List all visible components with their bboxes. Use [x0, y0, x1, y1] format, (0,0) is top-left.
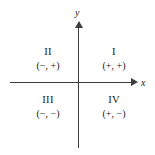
quadrant-label-1: I (+, +)	[88, 45, 140, 73]
quadrant-label-3: III (−, −)	[22, 93, 74, 121]
y-axis-arrowhead-icon	[75, 21, 83, 28]
y-axis-line	[78, 27, 79, 148]
quadrant-numeral: III	[22, 93, 74, 106]
x-axis-arrowhead-icon	[131, 78, 138, 86]
quadrant-numeral: IV	[88, 93, 140, 106]
quadrant-signs: (−, −)	[22, 107, 74, 121]
y-axis-label: y	[75, 8, 79, 18]
x-axis-line	[10, 82, 134, 83]
quadrant-label-2: II (−, +)	[22, 45, 74, 73]
x-axis-label: x	[141, 78, 145, 88]
quadrant-signs: (−, +)	[22, 59, 74, 73]
quadrant-signs: (+, −)	[88, 107, 140, 121]
quadrant-signs: (+, +)	[88, 59, 140, 73]
quadrant-numeral: I	[88, 45, 140, 58]
quadrant-label-4: IV (+, −)	[88, 93, 140, 121]
coordinate-plane-figure: x y II (−, +) I (+, +) III (−, −) IV (+,…	[0, 0, 155, 155]
quadrant-numeral: II	[22, 45, 74, 58]
